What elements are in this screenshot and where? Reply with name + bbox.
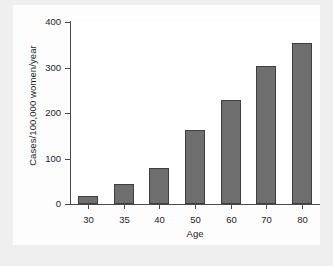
y-tick-label: 400 <box>45 16 61 27</box>
x-tick-label: 40 <box>154 214 165 225</box>
plot-area: 0100200300400 30354050607080 <box>70 22 320 204</box>
bar <box>185 130 205 204</box>
x-tick: 70 <box>266 204 267 209</box>
bar <box>78 196 98 204</box>
bar <box>292 43 312 204</box>
figure: Cases/100,000 women/year 0100200300400 3… <box>0 0 333 266</box>
y-tick-label: 300 <box>45 62 61 73</box>
y-axis-line <box>70 21 71 204</box>
y-tick: 300 <box>65 68 70 69</box>
y-tick: 0 <box>65 204 70 205</box>
x-tick: 30 <box>88 204 89 209</box>
x-tick: 50 <box>195 204 196 209</box>
x-tick: 60 <box>231 204 232 209</box>
x-tick-label: 60 <box>226 214 237 225</box>
x-axis-label: Age <box>70 228 320 239</box>
x-tick: 35 <box>124 204 125 209</box>
y-tick: 200 <box>65 113 70 114</box>
y-axis-label: Cases/100,000 women/year <box>27 11 38 201</box>
x-tick: 80 <box>302 204 303 209</box>
x-tick-label: 70 <box>261 214 272 225</box>
bar <box>114 184 134 204</box>
bar <box>256 66 276 204</box>
y-tick-label: 100 <box>45 153 61 164</box>
y-tick-label: 200 <box>45 107 61 118</box>
bar <box>149 168 169 204</box>
bar <box>221 100 241 204</box>
x-tick-label: 30 <box>83 214 94 225</box>
y-tick: 100 <box>65 159 70 160</box>
x-tick-label: 35 <box>119 214 130 225</box>
y-tick-label: 0 <box>56 198 61 209</box>
y-tick: 400 <box>65 22 70 23</box>
x-tick: 40 <box>159 204 160 209</box>
x-tick-label: 80 <box>297 214 308 225</box>
x-tick-label: 50 <box>190 214 201 225</box>
